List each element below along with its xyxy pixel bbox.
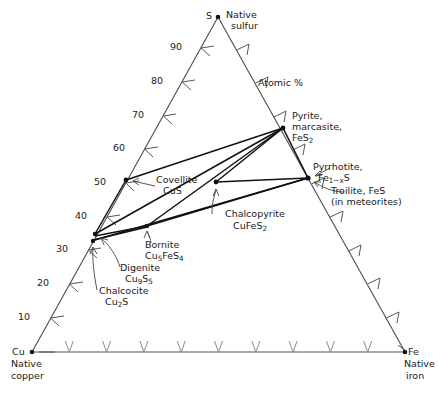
- tick-left-80: [51, 316, 64, 326]
- ticks-bottom-axis: [65, 341, 371, 352]
- mineral-label-troilite-note: (in meteorites): [331, 196, 402, 207]
- vertex-label-iron-line1: Native: [404, 358, 435, 369]
- tick-label-20: 20: [27, 277, 49, 288]
- tick-left-40: [145, 147, 158, 157]
- mineral-label-chalcopyrite-line1: Chalcopyrite: [225, 208, 285, 219]
- point-bornite: [145, 224, 149, 228]
- digenite-formula-cu: Cu: [125, 273, 138, 284]
- bornite-formula-cu: Cu: [145, 250, 158, 261]
- vertex-label-iron-line2: iron: [406, 370, 424, 381]
- mineral-label-pyrite-formula: FeS2: [292, 132, 313, 146]
- point-vertex-copper: [30, 350, 35, 355]
- tick-bottom-3: [140, 341, 148, 352]
- point-chalcocite: [91, 239, 95, 243]
- tick-bottom-5: [215, 341, 223, 352]
- tick-bottom-8: [326, 341, 334, 352]
- mineral-label-pyrite-line1: Pyrite,: [292, 110, 323, 121]
- vertex-label-sulfur-name-line1: Native: [226, 9, 257, 20]
- point-pyrite: [281, 126, 286, 131]
- mineral-label-pyrrhotite-line1: Pyrrhotite,: [313, 161, 363, 172]
- point-pyrrhotite: [305, 175, 310, 180]
- pyrrhotite-formula-sub: 1−x: [329, 176, 344, 185]
- axis-label-atomic-percent: Atomic %: [258, 77, 303, 88]
- point-vertex-sulfur: [216, 15, 221, 20]
- mineral-label-pyrrhotite-formula: Fe1−xS: [318, 172, 350, 186]
- tick-bottom-6: [252, 341, 260, 352]
- bornite-formula-fes-sub: 4: [179, 254, 184, 263]
- pyrrhotite-formula-tail: S: [344, 172, 350, 183]
- tick-bottom-2: [103, 341, 111, 352]
- tick-bottom-4: [177, 341, 185, 352]
- tick-label-90: 90: [160, 41, 182, 52]
- pyrrhotite-formula-base: Fe: [318, 172, 329, 183]
- mineral-label-chalcocite-formula: Cu2S: [105, 296, 128, 310]
- vertex-label-sulfur-symbol: S: [206, 10, 212, 21]
- vertex-label-copper-line1: Native: [11, 358, 42, 369]
- ternary-phase-diagram: S Native sulfur Atomic % 90 80 70 60 50 …: [0, 0, 438, 404]
- tick-label-60: 60: [103, 142, 125, 153]
- mineral-label-chalcopyrite-formula: CuFeS2: [233, 220, 267, 234]
- point-digenite: [93, 232, 97, 236]
- chalcocite-formula-s: S: [122, 296, 128, 307]
- mineral-label-bornite-line1: Bornite: [145, 239, 179, 250]
- vertex-label-copper-symbol: Cu: [12, 346, 25, 357]
- vertex-label-copper-line2: copper: [11, 370, 44, 381]
- pyrite-formula-base: FeS: [292, 132, 309, 143]
- mineral-label-covellite-line1: Covellite: [156, 174, 197, 185]
- bornite-formula-fes: FeS: [162, 250, 179, 261]
- tick-label-70: 70: [122, 109, 144, 120]
- leader-bornite-arrow: [144, 231, 150, 238]
- pyrite-formula-sub: 2: [309, 136, 314, 145]
- mineral-label-pyrite-line2: marcasite,: [292, 121, 342, 132]
- tick-bottom-9: [364, 341, 372, 352]
- mineral-label-covellite-formula: CuS: [163, 185, 182, 196]
- point-covellite: [124, 178, 129, 183]
- tick-label-40: 40: [65, 210, 87, 221]
- tick-left-50: [126, 181, 139, 191]
- tick-label-30: 30: [46, 243, 68, 254]
- tick-label-10: 10: [8, 311, 30, 322]
- mineral-label-digenite-line1: Digenite: [120, 262, 160, 273]
- tick-left-90: [69, 282, 83, 292]
- leader-digenite: [101, 238, 120, 267]
- tie-line-chalcopyrite-pyrite: [216, 128, 283, 182]
- tick-left-30: [163, 114, 176, 124]
- tick-left-20: [182, 80, 195, 90]
- vertex-label-iron-symbol: Fe: [408, 346, 419, 357]
- mineral-label-chalcocite-line1: Chalcocite: [99, 285, 149, 296]
- tick-bottom-7: [289, 341, 297, 352]
- chalcopyrite-formula-base: CuFeS: [233, 220, 262, 231]
- chalcopyrite-formula-sub: 2: [262, 224, 267, 233]
- tick-bottom-1: [65, 341, 73, 352]
- tick-label-50: 50: [84, 176, 106, 187]
- leader-chalcopyrite-arrow: [213, 189, 219, 196]
- chalcocite-formula-cu: Cu: [105, 296, 118, 307]
- tick-label-80: 80: [141, 75, 163, 86]
- tick-left-10: [201, 46, 214, 56]
- vertex-label-sulfur-name-line2: sulfur: [231, 20, 258, 31]
- mineral-label-troilite-line1: Troilite, FeS: [331, 185, 385, 196]
- point-chalcopyrite: [214, 180, 219, 185]
